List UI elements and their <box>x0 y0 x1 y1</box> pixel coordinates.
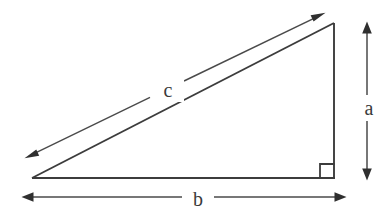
dimension-arrow-c-segment-upper <box>184 18 316 81</box>
dimension-arrow-b-head-right <box>335 192 347 201</box>
side-label-a: a <box>355 95 383 121</box>
dimension-arrow-b-head-left <box>22 192 34 201</box>
right-triangle-diagram: c a b <box>0 0 387 216</box>
dimension-arrow-a-head-bottom <box>362 169 372 181</box>
dimension-arrow-c-head-start <box>25 150 40 159</box>
dimension-arrow-a-head-top <box>362 22 372 34</box>
dimension-arrow-c-head-end <box>311 13 326 22</box>
diagram-canvas <box>0 0 387 216</box>
side-label-c: c <box>152 78 184 102</box>
side-label-b: b <box>182 187 214 211</box>
right-angle-square <box>320 164 335 179</box>
